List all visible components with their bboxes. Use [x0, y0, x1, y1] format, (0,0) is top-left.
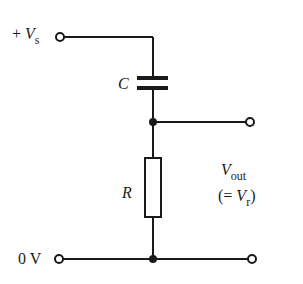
vs-symbol: V — [25, 25, 35, 42]
capacitor-plate-top — [137, 76, 168, 80]
vs-terminal — [56, 33, 64, 41]
resistor — [145, 158, 161, 217]
vs-label: + Vs — [12, 26, 39, 42]
vr-open-paren: (= — [218, 187, 236, 204]
capacitor-label: C — [118, 76, 129, 92]
vr-subscript: r — [246, 195, 250, 209]
circuit-schematic — [0, 0, 303, 284]
vr-close-paren: ) — [250, 187, 255, 204]
resistor-label: R — [122, 185, 132, 201]
vout-terminal — [246, 118, 254, 126]
junction-dot-ground — [149, 255, 157, 263]
vout-label: Vout — [221, 162, 246, 178]
circuit-diagram: + Vs C R Vout (= Vr) 0 V — [0, 0, 303, 284]
vr-label: (= Vr) — [218, 188, 255, 204]
vout-subscript: out — [231, 169, 246, 183]
capacitor-plate-bottom — [137, 86, 168, 90]
vs-plus-sign: + — [12, 25, 21, 42]
vs-subscript: s — [35, 33, 40, 47]
ground-terminal-left — [55, 255, 63, 263]
vr-symbol: V — [236, 187, 246, 204]
ground-label: 0 V — [18, 251, 41, 267]
junction-dot-output — [149, 118, 157, 126]
ground-terminal-right — [248, 255, 256, 263]
vout-symbol: V — [221, 161, 231, 178]
